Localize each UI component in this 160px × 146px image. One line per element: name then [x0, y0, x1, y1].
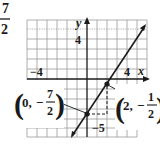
fraction-numerator: 7 [2, 1, 9, 16]
tick-label-x-4: 4 [124, 65, 130, 79]
svg-text:2: 2 [47, 104, 53, 118]
leader-line-1 [63, 104, 86, 113]
svg-text:−: − [137, 98, 144, 113]
point-label-second: ( 2, − 1 2 ) [115, 84, 160, 130]
tick-label-x-neg4: −4 [30, 65, 43, 79]
tick-label-y-neg5: −5 [92, 121, 105, 135]
x-axis-arrow-icon [143, 76, 150, 82]
svg-text:1: 1 [148, 90, 154, 104]
tick-label-y-4: 4 [75, 33, 81, 47]
svg-text:−: − [36, 95, 43, 110]
fraction-fragment: 7 2 [0, 1, 10, 37]
point-y-intercept [84, 111, 89, 116]
svg-text:7: 7 [47, 87, 53, 101]
svg-text:2: 2 [148, 107, 154, 121]
line-arrow-up-icon [140, 24, 146, 31]
y-axis-arrow-icon [84, 17, 90, 24]
svg-text:2,: 2, [123, 98, 133, 113]
y-axis-label: y [74, 16, 82, 30]
fraction-denominator: 2 [1, 22, 8, 37]
graph-figure: 7 2 [0, 0, 160, 146]
x-axis-label: x [137, 64, 144, 78]
svg-text:): ) [156, 91, 160, 125]
svg-text:): ) [55, 87, 65, 121]
point-label-y-intercept: ( 0, − 7 2 ) [14, 80, 65, 128]
svg-text:0,: 0, [22, 95, 32, 110]
